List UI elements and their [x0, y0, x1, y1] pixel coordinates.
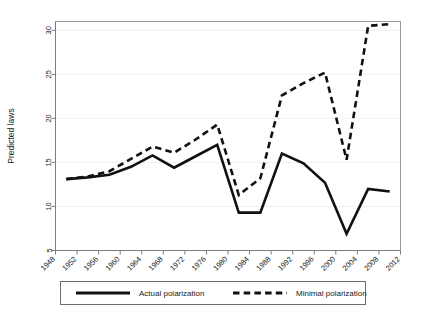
- y-tick-label-5: 5: [45, 248, 54, 252]
- chart-figure: 51015202530 1948195219561960196419681972…: [0, 0, 424, 315]
- legend-label-minimal-polarization: Minimal polarization: [296, 289, 367, 298]
- chart-legend: Actual polarization Minimal polarization: [61, 282, 367, 305]
- y-tick-label-30: 30: [45, 26, 54, 34]
- y-tick-label-10: 10: [45, 202, 54, 210]
- y-tick-label-25: 25: [45, 70, 54, 78]
- y-tick-label-15: 15: [45, 158, 54, 166]
- y-tick-label-20: 20: [45, 114, 54, 122]
- predicted-laws-line-chart: 51015202530 1948195219561960196419681972…: [0, 0, 424, 315]
- legend-label-actual-polarization: Actual polarization: [139, 289, 204, 298]
- y-axis-label: Predicted laws: [6, 108, 16, 163]
